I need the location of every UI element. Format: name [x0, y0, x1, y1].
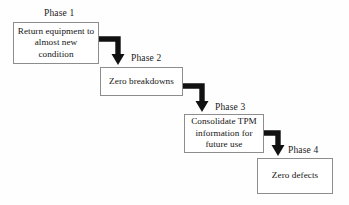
phase-1-box: Return equipment to almost new condition — [13, 22, 99, 64]
phase-4-box: Zero defects — [257, 158, 333, 194]
phase-4-label: Phase 4 — [288, 146, 318, 156]
arrow-phase-2-to-phase-3 — [181, 86, 209, 112]
phase-3-box: Consolidate TPM information for future u… — [184, 114, 264, 153]
phase-1-label: Phase 1 — [44, 9, 74, 19]
phase-2-box-text: Zero breakdowns — [106, 76, 177, 88]
phase-4-box-text: Zero defects — [269, 170, 321, 182]
phase-3-box-text: Consolidate TPM information for future u… — [185, 116, 263, 151]
tpm-phases-diagram: Phase 1 Return equipment to almost new c… — [0, 0, 349, 205]
phase-3-label: Phase 3 — [215, 103, 245, 113]
arrow-phase-3-to-phase-4 — [262, 133, 285, 156]
phase-2-box: Zero breakdowns — [100, 67, 183, 96]
phase-1-box-text: Return equipment to almost new condition — [14, 26, 98, 61]
phase-2-label: Phase 2 — [131, 54, 161, 64]
arrow-phase-1-to-phase-2 — [97, 39, 125, 65]
